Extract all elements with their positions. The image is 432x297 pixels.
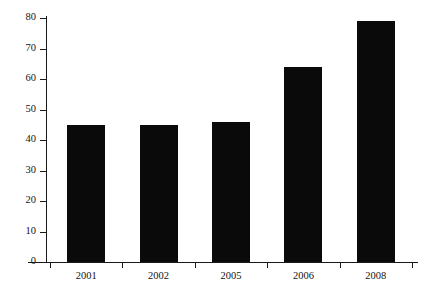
x-axis-tick-label: 2001	[56, 271, 116, 282]
x-axis-tick-label: 2002	[129, 271, 189, 282]
x-axis-tick	[412, 262, 413, 268]
x-axis-tick	[340, 262, 341, 268]
x-axis-tick	[195, 262, 196, 268]
x-axis-tick	[122, 262, 123, 268]
bar-2008	[357, 21, 395, 262]
bar-2001	[67, 125, 105, 262]
bars-layer	[0, 0, 432, 262]
x-axis-tick-label: 2008	[346, 271, 406, 282]
x-axis-line	[28, 262, 418, 263]
y-axis-tick	[40, 262, 46, 263]
bar-2005	[212, 122, 250, 262]
bar-chart: 01020304050607080 20012002200520062008	[0, 0, 432, 297]
x-axis-tick	[267, 262, 268, 268]
bar-2002	[140, 125, 178, 262]
x-axis-tick-label: 2006	[273, 271, 333, 282]
x-axis-tick-label: 2005	[201, 271, 261, 282]
x-axis-tick	[50, 262, 51, 268]
bar-2006	[284, 67, 322, 262]
